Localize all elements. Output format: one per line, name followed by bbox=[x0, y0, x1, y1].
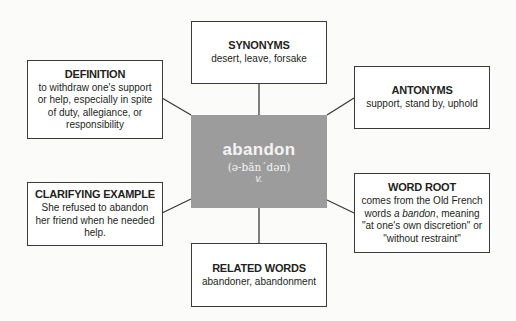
center-word: abandon bbox=[223, 140, 296, 160]
related-words-box: RELATED WORDS abandoner, abandonment bbox=[191, 243, 327, 307]
word-root-box: WORD ROOT comes from the Old French word… bbox=[354, 173, 490, 253]
related-words-title: RELATED WORDS bbox=[212, 262, 306, 274]
clarifying-example-box: CLARIFYING EXAMPLE She refused to abando… bbox=[27, 182, 163, 246]
word-root-body-italic: a bandon bbox=[394, 208, 436, 219]
connector-word-root bbox=[327, 200, 354, 213]
synonyms-body: desert, leave, forsake bbox=[211, 53, 307, 66]
antonyms-body: support, stand by, uphold bbox=[366, 98, 478, 111]
clarifying-example-title: CLARIFYING EXAMPLE bbox=[35, 188, 155, 200]
definition-box: DEFINITION to withdraw one's support or … bbox=[27, 60, 163, 139]
part-of-speech: v. bbox=[255, 173, 262, 184]
definition-body: to withdraw one's support or help, espec… bbox=[34, 82, 156, 132]
word-root-title: WORD ROOT bbox=[388, 181, 456, 193]
pronunciation: (ə-băn´dən) bbox=[228, 161, 291, 173]
synonyms-box: SYNONYMS desert, leave, forsake bbox=[191, 21, 327, 84]
connector-definition bbox=[162, 98, 191, 115]
center-word-box: abandon (ə-băn´dən) v. bbox=[191, 115, 327, 208]
antonyms-box: ANTONYMS support, stand by, uphold bbox=[354, 66, 490, 129]
antonyms-title: ANTONYMS bbox=[391, 84, 452, 96]
synonyms-title: SYNONYMS bbox=[228, 39, 289, 51]
related-words-body: abandoner, abandonment bbox=[202, 276, 316, 289]
word-root-body: comes from the Old French words a bandon… bbox=[361, 195, 483, 245]
connector-clarifying-example bbox=[162, 199, 191, 213]
definition-title: DEFINITION bbox=[65, 68, 125, 80]
connector-antonyms bbox=[327, 98, 354, 115]
clarifying-example-body: She refused to abandon her friend when h… bbox=[34, 202, 156, 240]
